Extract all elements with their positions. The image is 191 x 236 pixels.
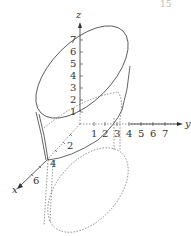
svg-text:5: 5 xyxy=(70,58,76,69)
svg-text:3: 3 xyxy=(70,82,76,93)
svg-text:6: 6 xyxy=(150,128,156,139)
svg-text:4: 4 xyxy=(50,158,56,169)
z-ticks xyxy=(80,40,83,112)
y-axis-label: y xyxy=(184,118,191,129)
svg-text:3: 3 xyxy=(114,128,120,139)
y-tick-labels: 1 2 3 4 5 6 7 xyxy=(91,128,168,139)
svg-text:7: 7 xyxy=(70,34,76,45)
upper-ellipse xyxy=(20,10,144,134)
x-tick-labels: 2 4 6 xyxy=(33,140,73,186)
svg-text:2: 2 xyxy=(70,94,76,105)
svg-text:6: 6 xyxy=(33,175,39,186)
x-axis xyxy=(17,124,80,189)
svg-text:6: 6 xyxy=(70,46,76,57)
y-axis xyxy=(80,122,183,126)
svg-text:2: 2 xyxy=(67,140,73,151)
svg-text:7: 7 xyxy=(162,128,168,139)
x-axis-label: x xyxy=(12,184,18,195)
svg-text:4: 4 xyxy=(126,128,132,139)
z-axis xyxy=(78,22,82,124)
svg-text:1: 1 xyxy=(91,128,97,139)
svg-text:2: 2 xyxy=(102,128,108,139)
cylinder-sides xyxy=(36,66,130,160)
svg-text:4: 4 xyxy=(70,70,76,81)
3d-surface-diagram: 15 xyxy=(0,0,191,236)
svg-text:1: 1 xyxy=(70,106,76,117)
page-number: 15 xyxy=(160,0,172,9)
svg-text:5: 5 xyxy=(138,128,144,139)
z-axis-label: z xyxy=(75,9,82,20)
z-tick-labels: 1 2 3 4 5 6 7 xyxy=(70,34,76,117)
lower-ellipse xyxy=(32,133,144,236)
